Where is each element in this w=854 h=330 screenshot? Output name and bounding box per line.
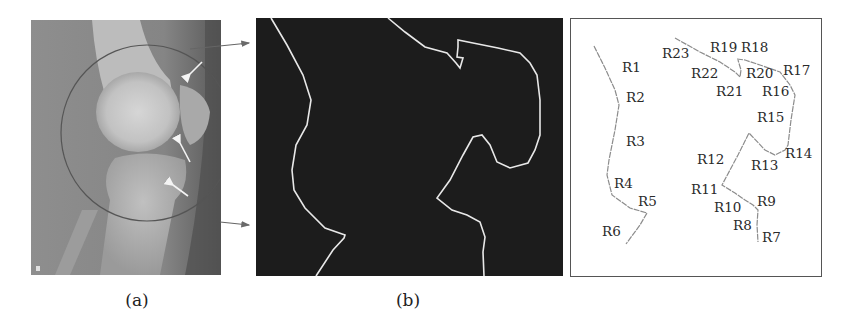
panel-b-edge-map [256, 18, 563, 276]
region-label-r23: R23 [662, 45, 689, 61]
region-label-r21: R21 [716, 83, 743, 99]
region-label-r19: R19 [710, 39, 737, 55]
region-label-r4: R4 [614, 175, 633, 191]
region-label-r18: R18 [741, 39, 768, 55]
caption-a: (a) [125, 290, 148, 310]
caption-b: (b) [396, 290, 420, 310]
corner-mark [36, 266, 40, 271]
panel-c-segments: R1R2R3R4R5R6R7R8R9R10R11R12R13R14R15R16R… [571, 19, 822, 277]
region-label-r13: R13 [751, 157, 778, 173]
region-label-r17: R17 [783, 62, 810, 78]
region-label-r2: R2 [626, 89, 645, 105]
region-label-r1: R1 [622, 59, 641, 75]
region-label-r16: R16 [762, 83, 789, 99]
region-label-r20: R20 [746, 65, 773, 81]
figure: R1R2R3R4R5R6R7R8R9R10R11R12R13R14R15R16R… [0, 0, 854, 330]
region-label-r7: R7 [762, 229, 781, 245]
region-label-r9: R9 [757, 193, 776, 209]
region-label-r12: R12 [697, 151, 724, 167]
region-label-r3: R3 [626, 133, 645, 149]
region-label-r8: R8 [733, 217, 752, 233]
panel-a-xray [31, 20, 233, 275]
region-label-r10: R10 [714, 199, 741, 215]
figure-canvas: R1R2R3R4R5R6R7R8R9R10R11R12R13R14R15R16R… [0, 0, 854, 330]
region-label-r11: R11 [691, 181, 718, 197]
region-label-r14: R14 [785, 145, 812, 161]
zoom-arrow-bottom [220, 222, 249, 225]
region-label-r6: R6 [602, 223, 621, 239]
region-label-r15: R15 [757, 109, 784, 125]
region-label-r22: R22 [691, 65, 718, 81]
region-label-r5: R5 [638, 193, 657, 209]
